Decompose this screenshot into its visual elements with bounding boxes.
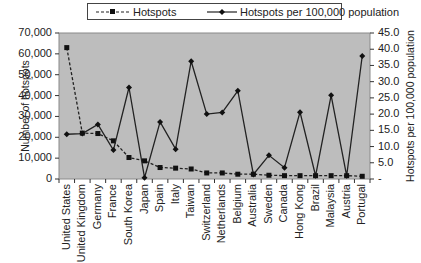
- right-tick-label: 15.0: [378, 123, 399, 135]
- right-tick-label: 35.0: [378, 58, 399, 70]
- hotspots-point: [220, 170, 225, 175]
- x-category-label: Australia: [246, 184, 258, 263]
- x-category-label: Brazil: [309, 184, 321, 263]
- legend-label-hotspots: Hotspots: [133, 5, 176, 19]
- left-tick-label: 70,000: [0, 26, 52, 38]
- x-category-label: Netherlands: [215, 184, 227, 263]
- right-tick-label: -: [378, 172, 382, 184]
- hotspots-point: [126, 155, 131, 160]
- x-category-label: United States: [60, 184, 72, 263]
- plot-area: [59, 33, 370, 179]
- legend-label-per-100k: Hotspots per 100,000 population: [240, 5, 399, 19]
- x-category-label: Hong Kong: [293, 184, 305, 263]
- right-tick-label: 20.0: [378, 107, 399, 119]
- x-category-label: Germany: [91, 184, 103, 263]
- left-tick-label: 20,000: [0, 130, 52, 142]
- left-tick-label: 10,000: [0, 151, 52, 163]
- left-tick-label: 30,000: [0, 109, 52, 121]
- x-category-label: South Korea: [122, 184, 134, 263]
- hotspots-point: [95, 131, 100, 136]
- left-tick-label: 60,000: [0, 47, 52, 59]
- hotspots-point: [329, 173, 334, 178]
- x-category-label: Japan: [138, 184, 150, 263]
- x-category-label: Malaysia: [324, 184, 336, 263]
- x-category-label: Austria: [340, 184, 352, 263]
- x-category-label: United Kingdom: [75, 184, 87, 263]
- hotspots-point: [158, 165, 163, 170]
- right-tick-label: 45.0: [378, 26, 399, 38]
- dashed-square-marker-icon: [96, 7, 130, 17]
- x-category-label: Switzerland: [200, 184, 212, 263]
- left-tick-label: 0: [0, 172, 52, 184]
- x-category-label: Spain: [153, 184, 165, 263]
- hotspots-point: [204, 170, 209, 175]
- x-category-label: Canada: [277, 184, 289, 263]
- right-tick-label: 25.0: [378, 91, 399, 103]
- hotspots-point: [235, 172, 240, 177]
- left-tick-label: 40,000: [0, 89, 52, 101]
- right-tick-label: 10.0: [378, 140, 399, 152]
- x-category-label: France: [106, 184, 118, 263]
- hotspots-point: [173, 166, 178, 171]
- hotspots-point: [142, 158, 147, 163]
- left-tick-label: 50,000: [0, 68, 52, 80]
- hotspots-point: [266, 173, 271, 178]
- right-tick-label: 40.0: [378, 42, 399, 54]
- solid-diamond-marker-icon: [207, 7, 237, 17]
- x-category-label: Sweden: [262, 184, 274, 263]
- right-tick-label: 5.0: [378, 156, 393, 168]
- hotspots-point: [298, 173, 303, 178]
- hotspots-point: [64, 45, 69, 50]
- right-axis-title: Hotspots per 100,000 population: [404, 21, 416, 191]
- left-axis-ticks: [55, 33, 59, 179]
- hotspots-point: [360, 174, 365, 179]
- x-category-label: Italy: [169, 184, 181, 263]
- right-tick-label: 30.0: [378, 75, 399, 87]
- x-category-label: Taiwan: [184, 184, 196, 263]
- hotspots-point: [282, 173, 287, 178]
- legend: Hotspots Hotspots per 100,000 population: [87, 3, 342, 20]
- x-category-label: Portugal: [355, 184, 367, 263]
- right-axis-ticks: [370, 33, 374, 179]
- hotspots-point: [189, 166, 194, 171]
- x-axis-ticks: [59, 179, 370, 183]
- x-category-label: Belgium: [231, 184, 243, 263]
